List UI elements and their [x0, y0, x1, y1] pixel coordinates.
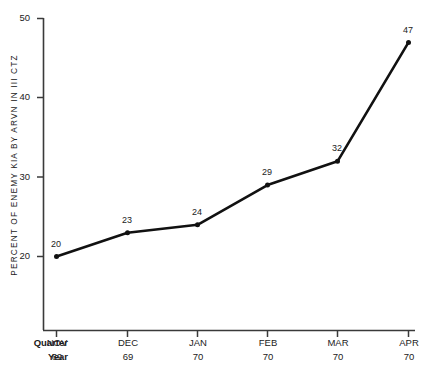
y-axis-title: PERCENT OF ENEMY KIA BY ARVN IN III CTZ: [6, 0, 22, 330]
x-year-label-0: 69: [27, 351, 87, 362]
y-tick-label-50: 50: [8, 13, 30, 23]
x-year-label-1: 69: [98, 351, 158, 362]
x-quarter-label-3: FEB: [238, 337, 298, 348]
data-point-marker: [406, 40, 411, 45]
x-quarter-label-5: APR: [379, 337, 427, 348]
y-tick-label-40: 40: [8, 92, 30, 102]
data-label-5: 47: [396, 25, 420, 35]
x-quarter-label-4: MAR: [308, 337, 368, 348]
data-point-marker: [265, 183, 270, 188]
data-point-marker: [195, 222, 200, 227]
data-point-markers: [54, 40, 411, 259]
line-chart: PERCENT OF ENEMY KIA BY ARVN IN III CTZ …: [0, 0, 427, 377]
data-label-3: 29: [255, 167, 279, 177]
data-label-4: 32: [325, 143, 349, 153]
y-tick-label-30: 30: [8, 172, 30, 182]
x-quarter-label-2: JAN: [168, 337, 228, 348]
x-year-label-5: 70: [379, 351, 427, 362]
x-year-label-2: 70: [168, 351, 228, 362]
chart-canvas: [0, 0, 427, 377]
x-quarter-label-1: DEC: [98, 337, 158, 348]
y-axis-ticks: [37, 19, 44, 257]
x-year-label-3: 70: [238, 351, 298, 362]
data-series-line: [57, 42, 409, 256]
data-point-marker: [125, 230, 130, 235]
y-tick-label-20: 20: [8, 251, 30, 261]
data-label-0: 20: [44, 239, 68, 249]
data-label-2: 24: [185, 207, 209, 217]
data-point-marker: [335, 159, 340, 164]
data-label-1: 23: [115, 215, 139, 225]
data-point-marker: [54, 254, 59, 259]
x-quarter-label-0: NOV: [27, 337, 87, 348]
x-axis-label-block: Quarter Year NOV 69 DEC 69 JAN 70 FEB 70…: [0, 337, 427, 371]
x-year-label-4: 70: [308, 351, 368, 362]
